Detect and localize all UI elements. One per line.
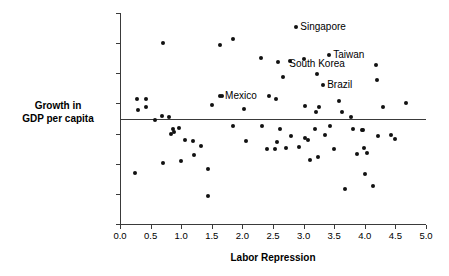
data-point [133,171,137,175]
x-tick-label: 4.5 [389,231,402,241]
data-point [361,128,365,132]
y-axis-title: Growth in GDP per capita [4,99,112,125]
x-tick-label: 0.0 [113,231,126,241]
data-point [276,60,280,64]
data-point [371,184,375,188]
data-point [314,110,318,114]
x-tick-label: 3.5 [328,231,341,241]
x-tick [395,225,396,229]
data-point [323,133,327,137]
x-tick-label: 3.0 [297,231,310,241]
x-tick-label: 4.0 [358,231,371,241]
y-tick [116,13,120,14]
data-point [365,151,369,155]
x-tick [120,225,121,229]
y-tick [116,73,120,74]
data-point [393,137,397,141]
x-tick [334,225,335,229]
data-point [316,155,320,159]
data-point [218,43,222,47]
data-point [259,56,263,60]
x-tick-label: 2.5 [266,231,279,241]
data-point [343,187,347,191]
y-tick [116,194,120,195]
data-point [144,97,148,101]
data-point [231,37,235,41]
x-axis-title: Labor Repression [120,252,426,264]
data-point [199,144,203,148]
data-point [363,172,367,176]
y-tick [116,224,120,225]
data-point [360,128,364,132]
data-point [242,107,246,111]
data-point [289,134,293,138]
data-point [260,124,264,128]
y-tick [116,43,120,44]
data-point [210,103,214,107]
x-tick [242,225,243,229]
data-point [303,104,307,108]
scatter-chart-figure: Growth in GDP per capita 0.00.51.01.52.0… [0,0,449,276]
data-point [340,110,344,114]
data-point [218,94,222,98]
data-point [317,105,321,109]
data-point [375,78,379,82]
data-point [351,127,355,131]
y-tick [116,134,120,135]
x-tick [426,225,427,229]
data-point [273,147,277,151]
data-point [332,147,336,151]
x-tick [273,225,274,229]
x-tick [151,225,152,229]
data-point [404,101,408,105]
data-point [337,99,341,103]
data-point [183,138,187,142]
data-point [135,97,139,101]
data-point [381,105,385,109]
data-point [192,153,196,157]
plot-area: SingaporeTaiwanSouth KoreaBrazilMexico [0,0,449,276]
data-point [297,145,301,149]
data-point [376,134,380,138]
data-point [278,127,282,131]
data-point [306,138,310,142]
x-tick [304,225,305,229]
data-point [313,127,317,131]
data-point [327,53,331,57]
data-point [136,108,140,112]
data-point [389,133,393,137]
data-point [169,132,173,136]
point-annotation: Singapore [300,22,346,32]
x-tick [365,225,366,229]
data-point [315,72,319,76]
data-point [308,158,312,162]
data-point [177,126,181,130]
data-point [161,41,165,45]
data-point [191,139,195,143]
point-annotation: Taiwan [333,50,364,60]
data-point [206,167,210,171]
y-tick [116,103,120,104]
y-axis-title-line2: GDP per capita [4,112,112,125]
x-tick [212,225,213,229]
data-point [172,130,176,134]
data-point [303,136,307,140]
data-point [265,147,269,151]
data-point [231,124,235,128]
data-point [160,114,164,118]
data-point [328,124,332,128]
point-annotation: Mexico [225,91,257,101]
data-point [321,83,325,87]
x-tick [181,225,182,229]
point-annotation: Brazil [327,80,352,90]
data-point [294,25,298,29]
data-point [161,161,165,165]
point-annotation: South Korea [289,59,345,69]
data-point [355,152,359,156]
data-point [274,97,278,101]
data-point [288,59,292,63]
data-point [275,140,279,144]
data-point [281,75,285,79]
x-tick-label: 5.0 [419,231,432,241]
data-point [374,63,378,67]
